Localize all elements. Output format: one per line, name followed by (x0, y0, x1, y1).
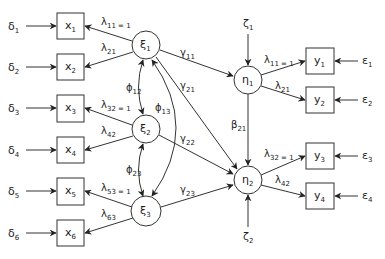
phi-23-label: ϕ23 (126, 164, 142, 178)
lambda-21-y: λ21 (275, 80, 290, 94)
lambda-11-y: λ11 = 1 (264, 54, 294, 68)
sem-diagram: δ1 δ2 δ3 δ4 δ5 δ6 x1 x2 x3 x4 x5 x6 λ11 … (0, 0, 385, 259)
gamma-arrows (156, 50, 237, 207)
y-loading-arrows (261, 61, 305, 196)
gamma-21-label: γ21 (180, 80, 195, 94)
delta-3-label: δ3 (8, 102, 19, 117)
y-indicator-labels: y1 y2 y3 y4 (314, 54, 326, 204)
gamma-23-line (161, 185, 233, 207)
x-indicator-labels: x1 x2 x3 x4 x5 x6 (65, 19, 77, 241)
diagram-svg: δ1 δ2 δ3 δ4 δ5 δ6 x1 x2 x3 x4 x5 x6 λ11 … (0, 0, 385, 259)
lambda-32-x: λ32 = 1 (101, 99, 131, 113)
zeta-1-label: ζ1 (243, 17, 253, 32)
delta-5-label: δ5 (8, 185, 19, 200)
lambda-11-x: λ11 = 1 (101, 16, 131, 30)
lambda-42-y: λ42 (275, 174, 290, 188)
phi-12-curve (139, 60, 144, 114)
delta-4-label: δ4 (8, 144, 20, 159)
zeta-2-label: ζ2 (243, 230, 253, 245)
epsilon-arrows (335, 61, 358, 196)
epsilon-1-label: ε1 (362, 54, 372, 69)
delta-arrows (26, 26, 56, 233)
delta-2-label: δ2 (8, 61, 19, 76)
gamma-22-label: γ22 (180, 133, 195, 147)
gamma-22-line (159, 135, 233, 174)
delta-1-label: δ1 (8, 20, 19, 35)
delta-6-label: δ6 (8, 227, 20, 242)
phi-12-label: ϕ12 (126, 82, 142, 96)
epsilon-3-label: ε3 (362, 149, 372, 164)
x-loading-arrows (85, 26, 133, 233)
gamma-11-label: γ11 (180, 47, 195, 61)
lambda-42-x: λ42 (101, 125, 116, 139)
lambda-63-x: λ63 (101, 208, 116, 222)
epsilon-2-label: ε2 (362, 93, 372, 108)
y-indicator-boxes (306, 48, 334, 209)
delta-labels: δ1 δ2 δ3 δ4 δ5 δ6 (8, 20, 20, 242)
lambda-21-x: λ21 (101, 42, 116, 56)
epsilon-labels: ε1 ε2 ε3 ε4 (362, 54, 373, 204)
lambda-32-y: λ32 = 1 (264, 148, 294, 162)
phi-13-label: ϕ13 (155, 102, 171, 116)
y-loading-labels: λ11 = 1 λ21 λ32 = 1 λ42 (264, 54, 294, 188)
gamma-labels: γ11 γ21 γ22 γ23 (180, 47, 195, 198)
gamma-11-line (160, 50, 233, 76)
x-indicator-boxes (57, 13, 84, 246)
beta-21-label: β21 (231, 119, 246, 133)
gamma-23-label: γ23 (180, 184, 195, 198)
epsilon-4-label: ε4 (362, 189, 373, 204)
lambda-53-x: λ53 = 1 (101, 182, 131, 196)
